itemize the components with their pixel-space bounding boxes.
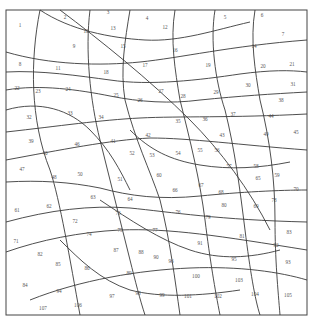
region-number-label: 57 — [226, 163, 232, 169]
region-number-label: 97 — [109, 293, 115, 299]
region-number-label: 36 — [202, 116, 208, 122]
region-number-label: 22 — [14, 85, 20, 91]
region-number-label: 44 — [268, 113, 274, 119]
region-number-label: 19 — [205, 62, 211, 68]
region-number-label: 33 — [67, 110, 73, 116]
region-number-label: 50 — [77, 171, 83, 177]
region-number-label: 62 — [46, 203, 52, 209]
region-number-label: 24 — [65, 86, 71, 92]
region-number-label: 58 — [253, 163, 259, 169]
region-number-label: 86 — [84, 265, 90, 271]
region-number-label: 30 — [245, 82, 251, 88]
region-number-label: 3 — [107, 9, 110, 15]
region-number-label: 100 — [192, 273, 200, 279]
puzzle-frame — [6, 10, 307, 315]
region-number-label: 76 — [175, 209, 181, 215]
region-number-label: 96 — [168, 258, 174, 264]
region-number-label: 93 — [285, 259, 291, 265]
region-number-label: 53 — [149, 152, 155, 158]
region-number-label: 102 — [214, 293, 222, 299]
region-number-label: 68 — [218, 189, 224, 195]
region-number-label: 103 — [235, 277, 243, 283]
region-number-label: 94 — [56, 288, 62, 294]
region-number-label: 61 — [14, 207, 20, 213]
region-number-label: 37 — [230, 111, 236, 117]
region-number-label: 10 — [83, 28, 89, 34]
region-number-label: 69 — [253, 203, 259, 209]
region-number-label: 1 — [19, 22, 22, 28]
region-number-label: 2 — [64, 14, 67, 20]
region-number-label: 55 — [197, 147, 203, 153]
region-number-label: 90 — [153, 254, 159, 260]
region-number-label: 104 — [251, 291, 259, 297]
region-number-label: 71 — [13, 238, 19, 244]
region-number-label: 42 — [145, 132, 151, 138]
region-number-label: 34 — [98, 114, 104, 120]
region-number-label: 106 — [74, 302, 82, 308]
region-number-label: 89 — [126, 270, 132, 276]
region-number-label: 23 — [35, 88, 41, 94]
region-number-label: 41 — [110, 138, 116, 144]
region-number-label: 45 — [293, 129, 299, 135]
region-number-label: 79 — [205, 214, 211, 220]
region-number-label: 77 — [152, 227, 158, 233]
region-number-label: 75 — [117, 227, 123, 233]
region-number-label: 85 — [55, 261, 61, 267]
region-number-label: 91 — [197, 240, 203, 246]
region-number-label: 54 — [175, 150, 181, 156]
region-number-label: 67 — [198, 182, 204, 188]
region-number-label: 18 — [103, 69, 109, 75]
region-number-label: 7 — [282, 31, 285, 37]
region-number-label: 8 — [19, 61, 22, 67]
region-number-label: 87 — [113, 247, 119, 253]
region-number-label: 46 — [74, 141, 80, 147]
region-number-label: 26 — [137, 97, 143, 103]
region-number-label: 56 — [214, 147, 220, 153]
region-number-label: 6 — [261, 12, 264, 18]
region-number-label: 105 — [284, 292, 292, 298]
region-number-label: 101 — [184, 293, 192, 299]
region-number-label: 11 — [56, 65, 61, 71]
region-number-label: 107 — [39, 305, 47, 311]
region-number-label: 14 — [251, 43, 257, 49]
region-number-label: 27 — [158, 88, 164, 94]
region-number-label: 21 — [289, 61, 295, 67]
region-number-label: 51 — [117, 176, 123, 182]
region-number-label: 88 — [138, 249, 144, 255]
region-number-label: 29 — [213, 89, 219, 95]
region-number-label: 82 — [37, 251, 43, 257]
region-number-label: 39 — [28, 138, 34, 144]
region-number-label: 83 — [286, 229, 292, 235]
region-number-label: 49 — [263, 131, 269, 137]
region-number-label: 16 — [172, 47, 178, 53]
region-number-label: 73 — [115, 210, 121, 216]
region-number-label: 25 — [113, 92, 119, 98]
region-number-label: 47 — [19, 166, 25, 172]
region-number-label: 98 — [135, 290, 141, 296]
region-number-label: 9 — [73, 43, 76, 49]
region-number-label: 4 — [146, 15, 149, 21]
region-number-label: 17 — [142, 62, 148, 68]
region-number-label: 66 — [172, 187, 178, 193]
region-number-label: 59 — [274, 172, 280, 178]
region-number-label: 28 — [180, 93, 186, 99]
region-number-label: 32 — [26, 114, 32, 120]
region-number-label: 63 — [90, 194, 96, 200]
region-number-label: 20 — [260, 63, 266, 69]
region-number-label: 60 — [156, 172, 162, 178]
region-number-label: 12 — [162, 24, 168, 30]
region-number-label: 81 — [239, 233, 245, 239]
region-number-label: 35 — [175, 118, 181, 124]
region-number-label: 13 — [110, 25, 116, 31]
region-number-label: 43 — [219, 132, 225, 138]
region-number-label: 70 — [293, 186, 299, 192]
region-number-label: 78 — [271, 197, 277, 203]
region-number-label: 92 — [273, 242, 279, 248]
region-number-label: 65 — [255, 175, 261, 181]
region-number-label: 72 — [72, 218, 78, 224]
region-number-label: 52 — [129, 150, 135, 156]
region-number-label: 38 — [278, 97, 284, 103]
region-number-label: 99 — [159, 292, 165, 298]
puzzle-line-art: 1234567891011121314151617181920212223242… — [0, 0, 313, 325]
region-number-label: 84 — [22, 282, 28, 288]
